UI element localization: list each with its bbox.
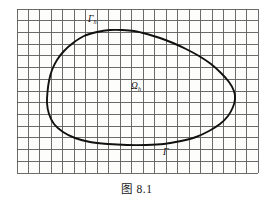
label-boundary-true: Γ xyxy=(162,147,169,157)
figure-root: Γh Ωh Γ 图 8.1 xyxy=(0,0,274,208)
label-boundary-true-symbol: Γ xyxy=(162,147,169,157)
label-boundary-discrete-subscript: h xyxy=(93,18,96,25)
diagram-svg: Γh Ωh Γ xyxy=(0,0,274,178)
diagram-area: Γh Ωh Γ xyxy=(0,0,274,178)
figure-caption: 图 8.1 xyxy=(0,180,274,196)
label-domain-discrete-subscript: h xyxy=(138,85,141,92)
